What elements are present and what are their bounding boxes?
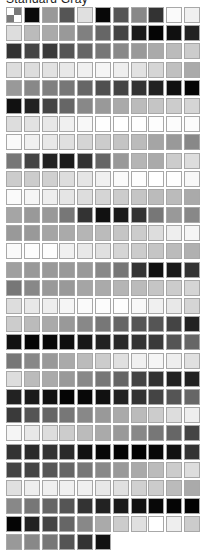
color-swatch[interactable] bbox=[166, 25, 182, 41]
color-swatch[interactable] bbox=[184, 334, 200, 350]
color-swatch[interactable] bbox=[42, 80, 58, 96]
color-swatch[interactable] bbox=[184, 43, 200, 59]
color-swatch[interactable] bbox=[148, 280, 164, 296]
color-swatch[interactable] bbox=[184, 298, 200, 314]
color-swatch[interactable] bbox=[59, 62, 75, 78]
color-swatch[interactable] bbox=[148, 389, 164, 405]
color-swatch[interactable] bbox=[95, 153, 111, 169]
color-swatch[interactable] bbox=[95, 444, 111, 460]
color-swatch[interactable] bbox=[184, 189, 200, 205]
color-swatch[interactable] bbox=[59, 171, 75, 187]
color-swatch[interactable] bbox=[95, 389, 111, 405]
color-swatch[interactable] bbox=[77, 25, 93, 41]
color-swatch[interactable] bbox=[131, 207, 147, 223]
color-swatch[interactable] bbox=[59, 407, 75, 423]
color-swatch[interactable] bbox=[131, 134, 147, 150]
color-swatch[interactable] bbox=[113, 280, 129, 296]
color-swatch[interactable] bbox=[24, 298, 40, 314]
color-swatch[interactable] bbox=[184, 462, 200, 478]
color-swatch[interactable] bbox=[77, 98, 93, 114]
color-swatch[interactable] bbox=[184, 407, 200, 423]
color-swatch[interactable] bbox=[148, 243, 164, 259]
color-swatch[interactable] bbox=[59, 243, 75, 259]
color-swatch[interactable] bbox=[77, 189, 93, 205]
color-swatch[interactable] bbox=[166, 225, 182, 241]
color-swatch[interactable] bbox=[24, 153, 40, 169]
color-swatch[interactable] bbox=[6, 43, 22, 59]
color-swatch[interactable] bbox=[6, 353, 22, 369]
color-swatch[interactable] bbox=[113, 480, 129, 496]
color-swatch[interactable] bbox=[77, 262, 93, 278]
color-swatch[interactable] bbox=[148, 25, 164, 41]
color-swatch[interactable] bbox=[42, 43, 58, 59]
color-swatch[interactable] bbox=[166, 407, 182, 423]
color-swatch[interactable] bbox=[59, 444, 75, 460]
color-swatch[interactable] bbox=[184, 371, 200, 387]
color-swatch[interactable] bbox=[166, 98, 182, 114]
color-swatch[interactable] bbox=[42, 280, 58, 296]
color-swatch[interactable] bbox=[184, 389, 200, 405]
color-swatch[interactable] bbox=[166, 480, 182, 496]
color-swatch[interactable] bbox=[95, 425, 111, 441]
color-swatch[interactable] bbox=[6, 534, 22, 550]
color-swatch[interactable] bbox=[166, 189, 182, 205]
color-swatch[interactable] bbox=[42, 7, 58, 23]
color-swatch[interactable] bbox=[148, 480, 164, 496]
color-swatch[interactable] bbox=[24, 480, 40, 496]
color-swatch[interactable] bbox=[148, 98, 164, 114]
color-swatch[interactable] bbox=[148, 171, 164, 187]
color-swatch[interactable] bbox=[113, 444, 129, 460]
color-swatch[interactable] bbox=[113, 334, 129, 350]
color-swatch[interactable] bbox=[24, 462, 40, 478]
color-swatch[interactable] bbox=[6, 62, 22, 78]
color-swatch[interactable] bbox=[131, 407, 147, 423]
color-swatch[interactable] bbox=[77, 134, 93, 150]
color-swatch[interactable] bbox=[95, 316, 111, 332]
color-swatch[interactable] bbox=[184, 80, 200, 96]
color-swatch[interactable] bbox=[59, 25, 75, 41]
color-swatch[interactable] bbox=[166, 389, 182, 405]
color-swatch[interactable] bbox=[166, 298, 182, 314]
color-swatch[interactable] bbox=[24, 280, 40, 296]
color-swatch[interactable] bbox=[6, 316, 22, 332]
color-swatch[interactable] bbox=[6, 243, 22, 259]
color-swatch[interactable] bbox=[95, 25, 111, 41]
color-swatch[interactable] bbox=[148, 516, 164, 532]
color-swatch[interactable] bbox=[59, 316, 75, 332]
color-swatch[interactable] bbox=[113, 316, 129, 332]
color-swatch[interactable] bbox=[184, 134, 200, 150]
color-swatch[interactable] bbox=[95, 516, 111, 532]
color-swatch[interactable] bbox=[59, 516, 75, 532]
color-swatch[interactable] bbox=[148, 298, 164, 314]
color-swatch[interactable] bbox=[131, 225, 147, 241]
color-swatch[interactable] bbox=[6, 516, 22, 532]
color-swatch[interactable] bbox=[42, 389, 58, 405]
color-swatch[interactable] bbox=[184, 116, 200, 132]
color-swatch[interactable] bbox=[113, 189, 129, 205]
color-swatch[interactable] bbox=[184, 243, 200, 259]
color-swatch[interactable] bbox=[59, 371, 75, 387]
color-swatch[interactable] bbox=[95, 43, 111, 59]
color-swatch[interactable] bbox=[131, 425, 147, 441]
color-swatch[interactable] bbox=[95, 480, 111, 496]
color-swatch[interactable] bbox=[166, 334, 182, 350]
color-swatch[interactable] bbox=[6, 153, 22, 169]
color-swatch[interactable] bbox=[113, 207, 129, 223]
color-swatch[interactable] bbox=[184, 280, 200, 296]
color-swatch[interactable] bbox=[59, 462, 75, 478]
color-swatch[interactable] bbox=[42, 334, 58, 350]
color-swatch[interactable] bbox=[95, 334, 111, 350]
color-swatch[interactable] bbox=[113, 225, 129, 241]
color-swatch[interactable] bbox=[148, 80, 164, 96]
color-swatch[interactable] bbox=[131, 516, 147, 532]
color-swatch[interactable] bbox=[113, 134, 129, 150]
color-swatch[interactable] bbox=[59, 189, 75, 205]
color-swatch[interactable] bbox=[6, 444, 22, 460]
color-swatch[interactable] bbox=[184, 207, 200, 223]
color-swatch[interactable] bbox=[148, 316, 164, 332]
color-swatch[interactable] bbox=[42, 225, 58, 241]
color-swatch[interactable] bbox=[6, 371, 22, 387]
color-swatch[interactable] bbox=[148, 262, 164, 278]
color-swatch[interactable] bbox=[95, 498, 111, 514]
color-swatch[interactable] bbox=[184, 7, 200, 23]
